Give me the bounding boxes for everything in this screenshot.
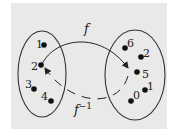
domain-label-2: 2 — [31, 60, 38, 73]
codomain-elements: 6 2 5 1 0 — [122, 37, 154, 104]
forward-function-label: f — [83, 21, 91, 36]
domain-point-3 — [31, 86, 37, 92]
codomain-point-5 — [134, 69, 140, 75]
inverse-function-label: f−1 — [73, 101, 92, 117]
domain-elements: 1 2 3 4 — [25, 38, 54, 104]
inverse-arrow-f-inverse — [45, 68, 128, 99]
domain-label-1: 1 — [36, 38, 43, 51]
codomain-label-1: 1 — [147, 80, 154, 93]
codomain-set-ellipse — [105, 30, 165, 120]
domain-label-3: 3 — [25, 78, 32, 91]
domain-label-4: 4 — [41, 90, 48, 103]
codomain-label-2: 2 — [143, 47, 150, 60]
codomain-label-0: 0 — [133, 89, 140, 102]
mapping-diagram: 1 2 3 4 6 2 5 1 0 f f−1 — [0, 0, 172, 132]
forward-arrow-f — [42, 42, 128, 68]
domain-point-4 — [48, 98, 54, 104]
codomain-label-6: 6 — [127, 37, 134, 50]
domain-point-2 — [38, 62, 44, 68]
inverse-function-superscript: −1 — [79, 101, 92, 111]
